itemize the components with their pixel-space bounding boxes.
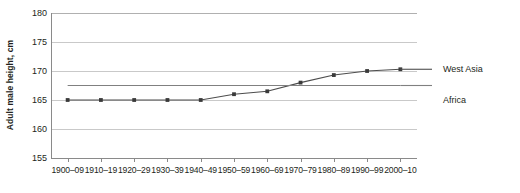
data-point-8: [332, 73, 336, 77]
legend-label-africa: Africa: [443, 95, 466, 105]
chart-container: Adult male height, cm 155160165170175180…: [0, 0, 520, 193]
data-point-2: [132, 98, 136, 102]
data-point-3: [166, 98, 170, 102]
data-point-4: [199, 98, 203, 102]
series-layer: [0, 0, 520, 193]
data-point-6: [265, 89, 269, 93]
legend-label-west-asia: West Asia: [443, 64, 483, 74]
data-point-0: [66, 98, 70, 102]
data-point-9: [365, 69, 369, 73]
series-west-asia: [66, 67, 403, 102]
data-point-7: [299, 81, 303, 85]
data-point-5: [232, 92, 236, 96]
data-point-1: [99, 98, 103, 102]
